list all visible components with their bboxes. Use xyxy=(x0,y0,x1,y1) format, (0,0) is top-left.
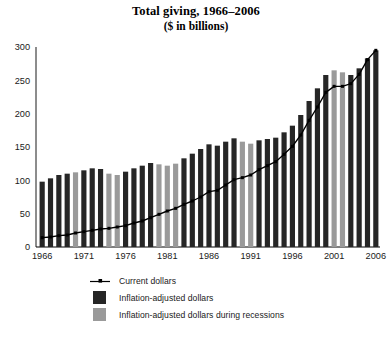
line-marker xyxy=(299,134,302,137)
bar xyxy=(256,140,261,247)
svg-text:1996: 1996 xyxy=(282,251,302,261)
bar xyxy=(81,170,86,247)
svg-text:1971: 1971 xyxy=(74,251,94,261)
line-marker xyxy=(274,160,277,163)
chart-figure: Total giving, 1966–2006 ($ in billions) … xyxy=(0,0,392,339)
bar xyxy=(357,68,362,247)
line-marker xyxy=(241,176,244,179)
line-marker xyxy=(141,220,144,223)
bar xyxy=(240,142,245,247)
legend-item-recession: Inflation-adjusted dollars during recess… xyxy=(88,306,348,323)
line-marker xyxy=(124,224,127,227)
line-marker xyxy=(66,234,69,237)
bar xyxy=(215,146,220,247)
bar xyxy=(140,166,145,247)
line-marker xyxy=(166,210,169,213)
bar xyxy=(340,72,345,247)
bar xyxy=(106,174,111,247)
svg-text:1986: 1986 xyxy=(199,251,219,261)
page-title: Total giving, 1966–2006 xyxy=(0,4,392,19)
bar xyxy=(206,144,211,247)
line-marker xyxy=(91,229,94,232)
bar xyxy=(115,175,120,247)
bar xyxy=(248,144,253,247)
chart-canvas: 050100150200250300 196619711976198119861… xyxy=(0,40,392,265)
line-marker xyxy=(74,232,77,235)
line-marker xyxy=(99,228,102,231)
line-marker xyxy=(82,230,85,233)
bar xyxy=(173,164,178,247)
line-marker xyxy=(191,200,194,203)
line-marker xyxy=(366,58,369,61)
line-marker xyxy=(57,234,60,237)
bar-series xyxy=(40,50,379,247)
bar xyxy=(123,172,128,247)
svg-text:1981: 1981 xyxy=(157,251,177,261)
bar xyxy=(332,70,337,247)
line-marker xyxy=(224,184,227,187)
legend-item-inflation-adjusted: Inflation-adjusted dollars xyxy=(88,289,348,306)
line-marker xyxy=(182,203,185,206)
line-marker xyxy=(258,168,261,171)
bar xyxy=(315,88,320,247)
svg-text:2006: 2006 xyxy=(366,251,386,261)
line-marker xyxy=(266,164,269,167)
line-marker xyxy=(107,227,110,230)
line-marker-icon xyxy=(88,274,112,287)
svg-text:150: 150 xyxy=(15,142,30,152)
line-marker xyxy=(174,207,177,210)
line-marker xyxy=(341,85,344,88)
bar xyxy=(165,166,170,247)
bar xyxy=(156,164,161,247)
chart-legend: Current dollars Inflation-adjusted dolla… xyxy=(88,272,348,323)
line-marker xyxy=(41,236,44,239)
line-marker xyxy=(149,216,152,219)
line-marker xyxy=(358,73,361,76)
bar xyxy=(90,168,95,247)
line-marker xyxy=(249,174,252,177)
line-marker xyxy=(349,82,352,85)
bar xyxy=(131,168,136,247)
plot-area: 050100150200250300 196619711976198119861… xyxy=(0,40,392,265)
svg-text:1976: 1976 xyxy=(115,251,135,261)
legend-label-recession: Inflation-adjusted dollars during recess… xyxy=(119,310,284,320)
x-axis-tick-labels: 196619711976198119861991199620012006 xyxy=(32,251,386,261)
bar xyxy=(148,163,153,247)
line-marker xyxy=(199,196,202,199)
line-marker xyxy=(116,226,119,229)
svg-text:100: 100 xyxy=(15,176,30,186)
bar xyxy=(373,50,378,247)
svg-text:250: 250 xyxy=(15,76,30,86)
legend-label-inflation-adjusted: Inflation-adjusted dollars xyxy=(119,293,213,303)
bar xyxy=(323,75,328,247)
line-marker xyxy=(233,178,236,181)
chart-title-block: Total giving, 1966–2006 ($ in billions) xyxy=(0,4,392,33)
bar xyxy=(273,138,278,247)
svg-text:1991: 1991 xyxy=(240,251,260,261)
legend-label-current-dollars: Current dollars xyxy=(119,276,176,286)
svg-text:50: 50 xyxy=(20,209,30,219)
bar xyxy=(231,138,236,247)
line-marker xyxy=(132,222,135,225)
bar xyxy=(98,169,103,247)
bar xyxy=(223,142,228,247)
chart-subtitle: ($ in billions) xyxy=(0,19,392,33)
bar xyxy=(73,172,78,247)
line-marker xyxy=(291,145,294,148)
bar xyxy=(365,58,370,247)
svg-text:0: 0 xyxy=(25,242,30,252)
line-marker xyxy=(308,119,311,122)
legend-item-current-dollars: Current dollars xyxy=(88,272,348,289)
line-marker xyxy=(49,236,52,239)
bar xyxy=(348,75,353,247)
line-marker xyxy=(333,85,336,88)
bar xyxy=(281,132,286,247)
line-marker xyxy=(157,213,160,216)
svg-text:200: 200 xyxy=(15,109,30,119)
line-marker xyxy=(374,49,377,52)
line-marker xyxy=(283,153,286,156)
line-marker xyxy=(216,189,219,192)
y-axis-tick-labels: 050100150200250300 xyxy=(15,42,30,252)
svg-text:1966: 1966 xyxy=(32,251,52,261)
line-marker xyxy=(316,106,319,109)
